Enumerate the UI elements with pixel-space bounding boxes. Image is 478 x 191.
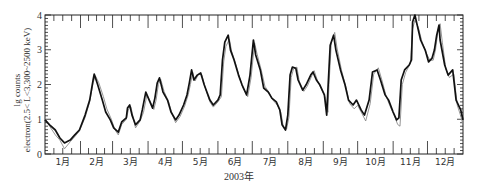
y-axis-title-line2: electron(2.5< L<3,300~2500 keV) — [22, 28, 32, 153]
x-tick-label: 12月 — [435, 157, 455, 167]
x-tick-label: 8月 — [298, 157, 313, 167]
x-tick-label: 1月 — [55, 157, 70, 167]
x-axis-title: 2003年 — [0, 168, 478, 183]
x-tick-label: 11月 — [400, 157, 420, 167]
y-axis-title: lg counts electron(2.5< L<3,300~2500 keV… — [2, 20, 42, 160]
series-layer — [45, 15, 463, 149]
x-axis: 1月2月3月4月5月6月7月8月9月10月11月12月 — [54, 15, 456, 167]
x-tick-label: 3月 — [123, 157, 138, 167]
x-tick-label: 7月 — [263, 157, 278, 167]
x-tick-label: 10月 — [365, 157, 385, 167]
x-tick-label: 4月 — [158, 157, 173, 167]
x-tick-label: 6月 — [228, 157, 243, 167]
x-tick-label: 5月 — [193, 157, 208, 167]
x-tick-label: 2月 — [89, 157, 104, 167]
x-tick-label: 9月 — [333, 157, 348, 167]
chart-canvas: 01234 1月2月3月4月5月6月7月8月9月10月11月12月 — [0, 0, 478, 191]
y-tick-label: 4 — [37, 10, 42, 21]
y-axis-title-line1: lg counts — [12, 28, 22, 153]
